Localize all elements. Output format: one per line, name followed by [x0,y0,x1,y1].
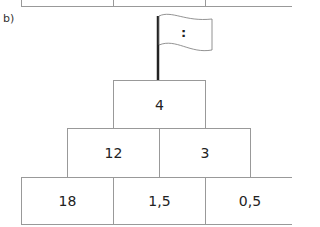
pyramid-cell-bottom-left: 18 [21,177,114,225]
pyramid-cell-bottom-right: 0,5 [205,177,292,225]
flag-symbol: : [181,25,186,40]
pyramid-cell-middle-right: 3 [159,128,251,178]
pyramid-cell-bottom-middle: 1,5 [113,177,206,225]
pyramid-cell-middle-left: 12 [67,128,160,178]
pyramid-cell-top: 4 [113,80,206,129]
